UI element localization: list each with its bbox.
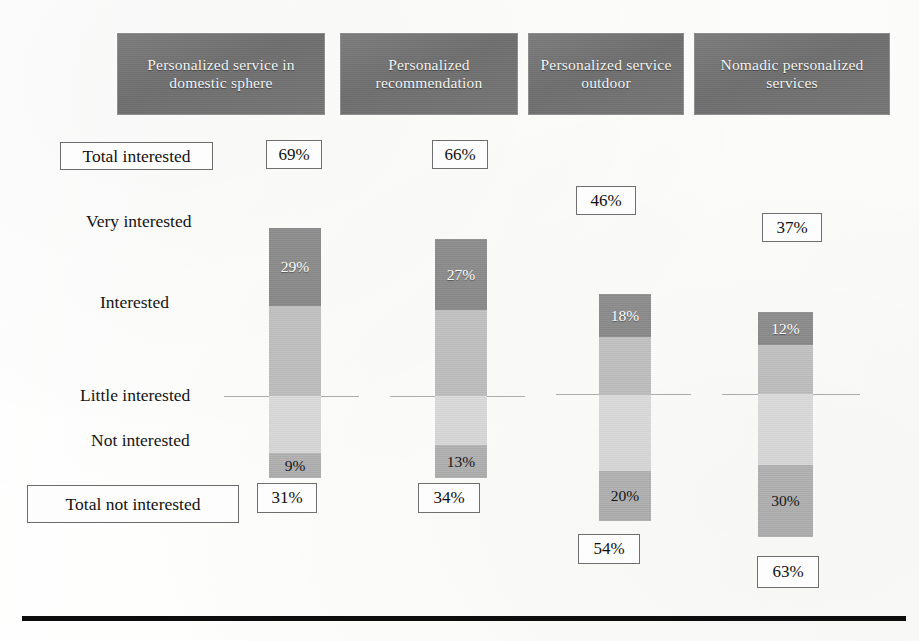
segment-little-interested-col3 bbox=[599, 395, 651, 471]
segment-not-interested-col3: 20% bbox=[599, 471, 651, 521]
segment-interested-col4 bbox=[758, 345, 813, 394]
segment-not-interested-col1: 9% bbox=[269, 453, 321, 478]
callout-total-interested-col2: 66% bbox=[432, 140, 488, 169]
row-label-total-not-interested: Total not interested bbox=[27, 485, 239, 523]
bar-col3: 18% 20% bbox=[599, 294, 651, 521]
bar-col1: 29% 9% bbox=[269, 228, 321, 478]
callout-total-not-interested-col1: 31% bbox=[257, 483, 317, 513]
column-header-nomadic: Nomadic personalized services bbox=[694, 33, 890, 115]
column-header-recommendation: Personalized recommendation bbox=[340, 33, 518, 115]
callout-total-not-interested-col2: 34% bbox=[418, 483, 480, 513]
callout-total-interested-col3: 46% bbox=[576, 186, 636, 215]
column-header-outdoor: Personalized service outdoor bbox=[528, 33, 684, 115]
segment-little-interested-col4 bbox=[758, 394, 813, 465]
bar-col2: 27% 13% bbox=[435, 239, 487, 478]
row-label-total-interested: Total interested bbox=[60, 142, 213, 170]
callout-total-not-interested-col3: 54% bbox=[578, 534, 640, 564]
row-label-interested: Interested bbox=[100, 292, 169, 313]
column-header-domestic: Personalized service in domestic sphere bbox=[117, 33, 325, 115]
callout-total-not-interested-col4: 63% bbox=[757, 556, 819, 588]
row-label-little-interested: Little interested bbox=[80, 385, 190, 406]
callout-total-interested-col1: 69% bbox=[266, 140, 322, 169]
segment-little-interested-col2 bbox=[435, 396, 487, 445]
segment-little-interested-col1 bbox=[269, 396, 321, 453]
segment-not-interested-col2: 13% bbox=[435, 445, 487, 478]
bar-col4: 12% 30% bbox=[758, 312, 813, 537]
segment-not-interested-col4: 30% bbox=[758, 465, 813, 537]
segment-interested-col3 bbox=[599, 337, 651, 395]
row-label-very-interested: Very interested bbox=[86, 211, 191, 232]
bottom-divider-rule bbox=[22, 616, 906, 621]
segment-very-interested-col3: 18% bbox=[599, 294, 651, 337]
segment-interested-col1 bbox=[269, 306, 321, 396]
segment-very-interested-col2: 27% bbox=[435, 239, 487, 310]
callout-total-interested-col4: 37% bbox=[762, 213, 822, 242]
segment-very-interested-col1: 29% bbox=[269, 228, 321, 306]
segment-interested-col2 bbox=[435, 310, 487, 396]
row-label-not-interested: Not interested bbox=[91, 430, 190, 451]
segment-very-interested-col4: 12% bbox=[758, 312, 813, 345]
